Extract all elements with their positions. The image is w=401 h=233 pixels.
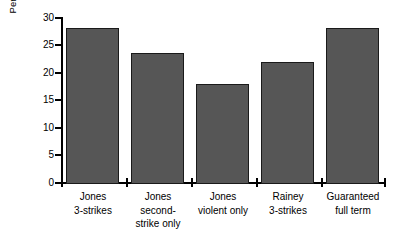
y-tick-label-30: 30 <box>32 13 54 23</box>
y-axis-title: Percentage reduction in crime <box>5 0 21 34</box>
y-tick-label-10-wrap: 10 <box>28 123 54 133</box>
x-label-line: Rainey <box>254 190 322 204</box>
y-tick-label-0-wrap: 0 <box>28 178 54 188</box>
y-tick-label-15-wrap: 15 <box>28 95 54 105</box>
plot-area <box>62 17 386 184</box>
x-label-jones-second-strike: Jones second- strike only <box>124 190 192 231</box>
x-label-guaranteed-full-term: Guaranteed full term <box>317 190 389 217</box>
x-label-line: 3-strikes <box>59 204 127 218</box>
bar-chart: Percentage reduction in crime 30 25 20 1… <box>0 0 401 233</box>
x-label-line: Guaranteed <box>317 190 389 204</box>
x-label-line: violent only <box>189 204 257 218</box>
x-label-line: second- <box>124 204 192 218</box>
x-axis-labels: Jones 3-strikes Jones second- strike onl… <box>62 190 386 232</box>
bar-jones-violent-only <box>196 84 249 184</box>
y-tick-label-25-wrap: 25 <box>28 40 54 50</box>
bar-rainey-3-strikes <box>261 62 314 185</box>
y-tick-label-5: 5 <box>32 150 54 160</box>
bar-jones-second-strike <box>131 53 184 184</box>
x-label-line: full term <box>317 204 389 218</box>
x-label-jones-3-strikes: Jones 3-strikes <box>59 190 127 217</box>
x-label-rainey-3-strikes: Rainey 3-strikes <box>254 190 322 217</box>
x-label-line: Jones <box>189 190 257 204</box>
x-label-line: strike only <box>124 217 192 231</box>
y-tick-label-30-wrap: 30 <box>28 13 54 23</box>
x-label-line: Jones <box>124 190 192 204</box>
bar-jones-3-strikes <box>66 28 119 184</box>
y-tick-label-20-wrap: 20 <box>28 68 54 78</box>
y-tick-label-0: 0 <box>32 178 54 188</box>
x-label-jones-violent-only: Jones violent only <box>189 190 257 217</box>
y-tick-label-15: 15 <box>32 95 54 105</box>
y-tick-label-20: 20 <box>32 68 54 78</box>
y-tick-label-25: 25 <box>32 40 54 50</box>
y-tick-label-5-wrap: 5 <box>28 150 54 160</box>
x-label-line: Jones <box>59 190 127 204</box>
y-tick-label-10: 10 <box>32 123 54 133</box>
x-label-line: 3-strikes <box>254 204 322 218</box>
bar-guaranteed-full-term <box>326 28 379 184</box>
